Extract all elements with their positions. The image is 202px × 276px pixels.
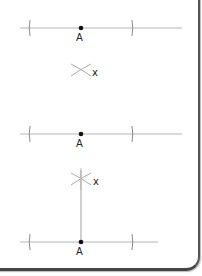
figure-step-1: A x: [20, 20, 182, 78]
point-a-label: A: [76, 32, 83, 43]
intersection-x-label: x: [93, 176, 99, 187]
point-a-label: A: [76, 138, 83, 149]
point-a: [79, 132, 84, 137]
arc-intersection-x: [71, 64, 91, 76]
point-a: [79, 26, 84, 31]
intersection-x-label: x: [92, 67, 98, 78]
point-a: [79, 240, 84, 245]
construction-diagram: A x A x A: [0, 0, 202, 276]
figure-step-2: A x: [20, 126, 182, 190]
point-a-label: A: [76, 246, 83, 257]
